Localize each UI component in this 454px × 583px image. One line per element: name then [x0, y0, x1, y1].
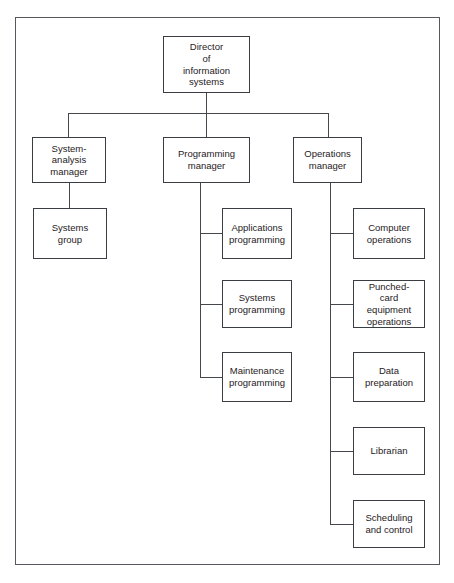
node-applications-programming[interactable]: Applications programming: [222, 208, 292, 259]
node-librarian-label: Librarian: [368, 445, 411, 457]
connector-bus-level2: [68, 113, 329, 114]
node-maintenance-programming-label: Maintenance programming: [226, 365, 288, 388]
node-system-analysis-manager[interactable]: System- analysis manager: [32, 137, 106, 183]
connector-operations-to-data-preparation: [330, 377, 353, 378]
node-data-preparation-label: Data preparation: [362, 365, 416, 388]
node-scheduling-and-control[interactable]: Scheduling and control: [353, 500, 425, 548]
node-systems-group-label: Systems group: [49, 222, 91, 245]
connector-programming-to-maintenance: [200, 377, 222, 378]
node-librarian[interactable]: Librarian: [353, 427, 425, 475]
connector-bus-to-system-analysis-manager: [68, 113, 69, 138]
node-applications-programming-label: Applications programming: [226, 222, 288, 245]
connector-operations-to-computer-operations: [330, 233, 353, 234]
node-punched-card-equipment-operations-label: Punched- card equipment operations: [364, 281, 414, 327]
connector-operations-to-punched-card: [330, 304, 353, 305]
node-computer-operations[interactable]: Computer operations: [353, 208, 425, 259]
connector-operations-spine: [330, 183, 331, 524]
node-data-preparation[interactable]: Data preparation: [353, 352, 425, 402]
node-operations-manager[interactable]: Operations manager: [293, 137, 362, 183]
connector-programming-spine: [200, 183, 201, 377]
connector-operations-to-librarian: [330, 451, 353, 452]
connector-programming-to-applications: [200, 233, 222, 234]
node-programming-manager-label: Programming manager: [175, 148, 238, 171]
connector-bus-to-operations-manager: [328, 113, 329, 138]
node-director-label: Director of information systems: [180, 41, 233, 87]
node-operations-manager-label: Operations manager: [301, 148, 353, 171]
node-director[interactable]: Director of information systems: [163, 36, 250, 93]
node-system-analysis-manager-label: System- analysis manager: [47, 143, 91, 178]
node-systems-programming-label: Systems programming: [226, 292, 288, 315]
connector-operations-to-scheduling: [330, 524, 353, 525]
node-systems-group[interactable]: Systems group: [33, 208, 107, 259]
node-scheduling-and-control-label: Scheduling and control: [362, 512, 415, 535]
org-chart-canvas: Director of information systems System- …: [0, 0, 454, 583]
connector-system-analysis-to-systems-group: [69, 183, 70, 208]
node-computer-operations-label: Computer operations: [364, 222, 414, 245]
node-maintenance-programming[interactable]: Maintenance programming: [222, 352, 292, 402]
node-punched-card-equipment-operations[interactable]: Punched- card equipment operations: [353, 280, 425, 328]
node-systems-programming[interactable]: Systems programming: [222, 280, 292, 328]
connector-programming-to-systems-programming: [200, 304, 222, 305]
node-programming-manager[interactable]: Programming manager: [163, 137, 250, 183]
